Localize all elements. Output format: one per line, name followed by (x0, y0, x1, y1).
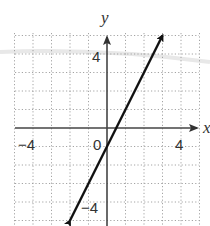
x-tick-label-4: 4 (175, 136, 183, 153)
coordinate-plane: y x 4 −4 0 4 −4 (0, 0, 210, 226)
x-axis-label: x (202, 118, 210, 137)
x-tick-label-neg4: −4 (18, 136, 35, 153)
y-tick-label-4: 4 (92, 48, 100, 65)
scan-artifact (0, 51, 210, 62)
y-tick-label-neg4: −4 (81, 199, 98, 216)
origin-label: 0 (93, 136, 101, 153)
y-axis-label: y (99, 8, 109, 27)
